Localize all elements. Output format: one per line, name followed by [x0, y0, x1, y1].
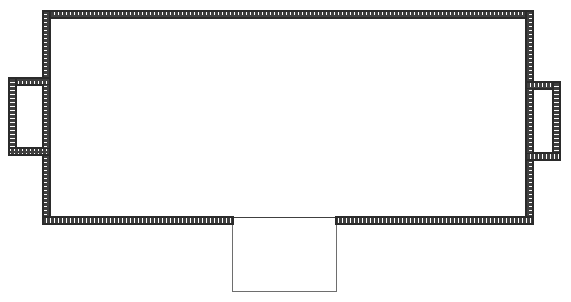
plan-background — [0, 0, 571, 302]
right-alcove-wall-bottom — [526, 153, 560, 160]
wall-top — [43, 11, 533, 18]
wall-bottom-right-segment — [336, 217, 533, 224]
floor-plan-drawing — [0, 0, 571, 302]
left-alcove-wall-outer — [9, 78, 16, 155]
right-alcove-wall-outer — [553, 82, 560, 160]
left-alcove-wall-bottom — [9, 148, 50, 155]
wall-bottom-left-segment — [43, 217, 233, 224]
floor-plan-canvas: Floor Plan Outline main-room left-alcove… — [0, 0, 571, 302]
